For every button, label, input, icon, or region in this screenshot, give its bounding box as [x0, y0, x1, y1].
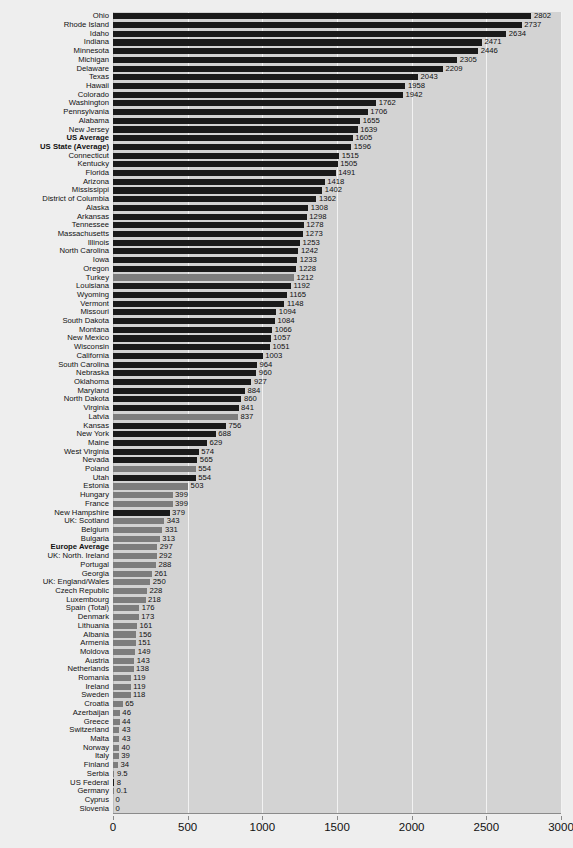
bar[interactable] — [113, 692, 131, 698]
bar[interactable] — [113, 649, 135, 655]
bar[interactable] — [113, 457, 197, 463]
bar[interactable] — [113, 684, 131, 690]
bar[interactable] — [113, 614, 139, 620]
bar[interactable] — [113, 623, 137, 629]
bar[interactable] — [113, 83, 405, 89]
bar-row[interactable]: Norway40 — [0, 743, 573, 752]
bar[interactable] — [113, 144, 351, 150]
bar[interactable] — [113, 344, 270, 350]
bar[interactable] — [113, 423, 226, 429]
x-axis: 050010001500200025003000 — [113, 813, 561, 843]
x-tick — [337, 816, 338, 820]
bar[interactable] — [113, 475, 196, 481]
bar[interactable] — [113, 449, 199, 455]
bar[interactable] — [113, 440, 207, 446]
bar[interactable] — [113, 396, 241, 402]
bar[interactable] — [113, 205, 308, 211]
bar[interactable] — [113, 588, 147, 594]
bar[interactable] — [113, 100, 376, 106]
bar[interactable] — [113, 231, 303, 237]
bar[interactable] — [113, 658, 134, 664]
bar[interactable] — [113, 309, 276, 315]
bar[interactable] — [113, 553, 157, 559]
bar[interactable] — [113, 161, 338, 167]
bar[interactable] — [113, 431, 216, 437]
bar[interactable] — [113, 370, 256, 376]
bar[interactable] — [113, 170, 336, 176]
bar[interactable] — [113, 66, 443, 72]
bar[interactable] — [113, 666, 134, 672]
bar[interactable] — [113, 240, 300, 246]
bar[interactable] — [113, 274, 294, 280]
bar[interactable] — [113, 57, 457, 63]
bar-row[interactable]: Poland554 — [0, 465, 573, 474]
bar[interactable] — [113, 501, 173, 507]
bar[interactable] — [113, 266, 296, 272]
bar-row[interactable]: Delaware2209 — [0, 64, 573, 73]
bar[interactable] — [113, 353, 263, 359]
bar-row[interactable]: Switzerland43 — [0, 726, 573, 735]
bar[interactable] — [113, 187, 322, 193]
bar[interactable] — [113, 222, 304, 228]
bar[interactable] — [113, 301, 284, 307]
bar[interactable] — [113, 214, 307, 220]
bar[interactable] — [113, 405, 239, 411]
bar[interactable] — [113, 579, 150, 585]
bar[interactable] — [113, 248, 298, 254]
bar[interactable] — [113, 675, 131, 681]
bar[interactable] — [113, 257, 297, 263]
bar[interactable] — [113, 510, 170, 516]
bar[interactable] — [113, 701, 123, 707]
bar-row[interactable]: North Carolina1242 — [0, 247, 573, 256]
bar[interactable] — [113, 39, 482, 45]
bar[interactable] — [113, 562, 156, 568]
x-tick — [561, 816, 562, 820]
x-tick-label: 1500 — [324, 821, 350, 833]
bar-row[interactable]: Massachusetts1273 — [0, 230, 573, 239]
bar[interactable] — [113, 92, 403, 98]
bar[interactable] — [113, 118, 360, 124]
bar[interactable] — [113, 631, 136, 637]
category-label: Slovenia — [80, 805, 110, 813]
chart-container: Ohio2802Rhode Island2737Idaho2634Indiana… — [0, 0, 573, 848]
bar[interactable] — [113, 483, 188, 489]
bar[interactable] — [113, 196, 316, 202]
bar[interactable] — [113, 544, 157, 550]
bar[interactable] — [113, 597, 146, 603]
x-axis-line — [113, 813, 561, 814]
bar[interactable] — [113, 414, 238, 420]
bar[interactable] — [113, 388, 245, 394]
bar[interactable] — [113, 153, 339, 159]
bar[interactable] — [113, 536, 160, 542]
bar[interactable] — [113, 74, 418, 80]
bar-row[interactable]: Slovenia0 — [0, 804, 573, 813]
bar[interactable] — [113, 571, 152, 577]
bar-row[interactable]: Rhode Island2737 — [0, 21, 573, 30]
bar[interactable] — [113, 710, 120, 716]
bar[interactable] — [113, 126, 358, 132]
bar[interactable] — [113, 31, 506, 37]
bar[interactable] — [113, 466, 196, 472]
bar[interactable] — [113, 335, 271, 341]
bar[interactable] — [113, 492, 173, 498]
bar-row[interactable]: Virginia841 — [0, 404, 573, 413]
bar[interactable] — [113, 327, 272, 333]
bar-value-label: 2209 — [443, 65, 463, 73]
bar[interactable] — [113, 13, 531, 19]
bar[interactable] — [113, 292, 287, 298]
bar[interactable] — [113, 640, 136, 646]
bar[interactable] — [113, 48, 478, 54]
bar[interactable] — [113, 318, 275, 324]
bar[interactable] — [113, 22, 522, 28]
bar[interactable] — [113, 379, 251, 385]
bar[interactable] — [113, 109, 368, 115]
bar[interactable] — [113, 527, 162, 533]
bar[interactable] — [113, 283, 291, 289]
bar[interactable] — [113, 518, 164, 524]
bar[interactable] — [113, 179, 325, 185]
bar[interactable] — [113, 605, 139, 611]
bar-row[interactable]: New York688 — [0, 430, 573, 439]
bar[interactable] — [113, 362, 257, 368]
bar-value-label: 503 — [188, 482, 203, 490]
bar[interactable] — [113, 135, 353, 141]
